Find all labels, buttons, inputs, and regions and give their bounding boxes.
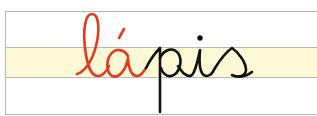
handwriting-practice-sheet: lápis	[0, 0, 317, 116]
rest-of-word	[146, 37, 252, 112]
highlighted-syllable	[77, 14, 146, 77]
cursive-word: lápis	[0, 0, 317, 116]
